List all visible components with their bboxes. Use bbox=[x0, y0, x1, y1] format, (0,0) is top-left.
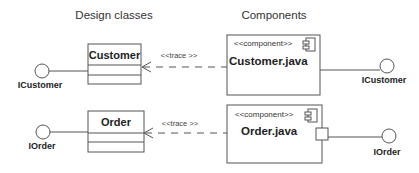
port-square[interactable] bbox=[316, 128, 328, 140]
class-name: Customer bbox=[89, 49, 141, 61]
interface-lollipop-icon bbox=[382, 129, 396, 143]
component-name: Customer.java bbox=[229, 55, 308, 67]
trace-label: <<trace >> bbox=[162, 119, 199, 128]
interface-icustomer-component[interactable]: ICustomer bbox=[320, 59, 407, 85]
interface-label: IOrder bbox=[28, 141, 56, 151]
component-stereotype: <<component>> bbox=[235, 110, 294, 119]
component-order-java[interactable]: <<component>> Order.java bbox=[227, 105, 328, 163]
interface-lollipop-icon bbox=[36, 125, 50, 139]
class-customer[interactable]: Customer bbox=[88, 44, 141, 84]
interface-label: IOrder bbox=[373, 147, 401, 157]
component-customer-java[interactable]: <<component>> Customer.java bbox=[227, 35, 320, 95]
interface-iorder-class[interactable]: IOrder bbox=[28, 125, 88, 151]
component-stereotype: <<component>> bbox=[234, 39, 293, 48]
component-name: Order.java bbox=[241, 125, 298, 137]
design-classes-header: Design classes bbox=[75, 9, 153, 21]
interface-label: ICustomer bbox=[18, 80, 63, 90]
interface-label: ICustomer bbox=[362, 75, 407, 85]
interface-icustomer-class[interactable]: ICustomer bbox=[18, 64, 88, 90]
trace-dependency-order[interactable]: <<trace >> bbox=[144, 119, 227, 138]
class-name: Order bbox=[101, 116, 132, 128]
interface-lollipop-icon bbox=[35, 64, 49, 78]
interface-lollipop-icon bbox=[380, 59, 394, 73]
trace-label: <<trace >> bbox=[161, 51, 198, 60]
components-header: Components bbox=[241, 9, 306, 21]
uml-diagram: Design classes Components ICustomer Cust… bbox=[0, 0, 419, 173]
interface-iorder-component[interactable]: IOrder bbox=[328, 129, 401, 157]
trace-dependency-customer[interactable]: <<trace >> bbox=[142, 51, 227, 72]
class-order[interactable]: Order bbox=[88, 111, 144, 152]
